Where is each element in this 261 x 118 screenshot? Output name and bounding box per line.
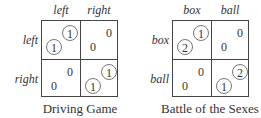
row-label: left (0, 33, 38, 47)
column-payoff: 0 (62, 64, 78, 80)
payoff-matrix: 1 1 0 0 0 0 1 1 (41, 20, 118, 97)
row-payoff: 0 (177, 78, 193, 94)
matrix-cell: 1 2 (212, 60, 250, 98)
payoff-matrix: 2 1 0 0 0 0 1 2 (172, 20, 249, 97)
row-payoff: 1 (46, 39, 62, 55)
column-label: right (80, 3, 118, 17)
matrix-cell: 0 0 (42, 60, 80, 98)
matrix-cell: 0 0 (212, 21, 250, 59)
row-label: ball (131, 72, 169, 86)
column-payoff: 1 (193, 25, 209, 41)
column-payoff: 2 (232, 64, 248, 80)
game-title: Driving Game (41, 101, 119, 116)
column-payoff: 0 (193, 64, 209, 80)
row-label: box (131, 33, 169, 47)
game-title: Battle of the Sexes (150, 101, 261, 116)
row-payoff: 1 (85, 78, 101, 94)
column-label: left (42, 3, 80, 17)
column-label: ball (211, 3, 249, 17)
row-payoff: 2 (177, 39, 193, 55)
row-payoff: 0 (85, 39, 101, 55)
column-payoff: 1 (62, 25, 78, 41)
matrix-cell: 1 1 (81, 60, 119, 98)
column-payoff: 1 (101, 64, 117, 80)
column-payoff: 0 (232, 25, 248, 41)
row-payoff: 0 (216, 39, 232, 55)
matrix-cell: 0 0 (81, 21, 119, 59)
matrix-cell: 2 1 (173, 21, 211, 59)
matrix-cell: 0 0 (173, 60, 211, 98)
column-label: box (173, 3, 211, 17)
row-payoff: 0 (46, 78, 62, 94)
row-payoff: 1 (216, 78, 232, 94)
row-label: right (0, 72, 38, 86)
matrix-cell: 1 1 (42, 21, 80, 59)
column-payoff: 0 (101, 25, 117, 41)
